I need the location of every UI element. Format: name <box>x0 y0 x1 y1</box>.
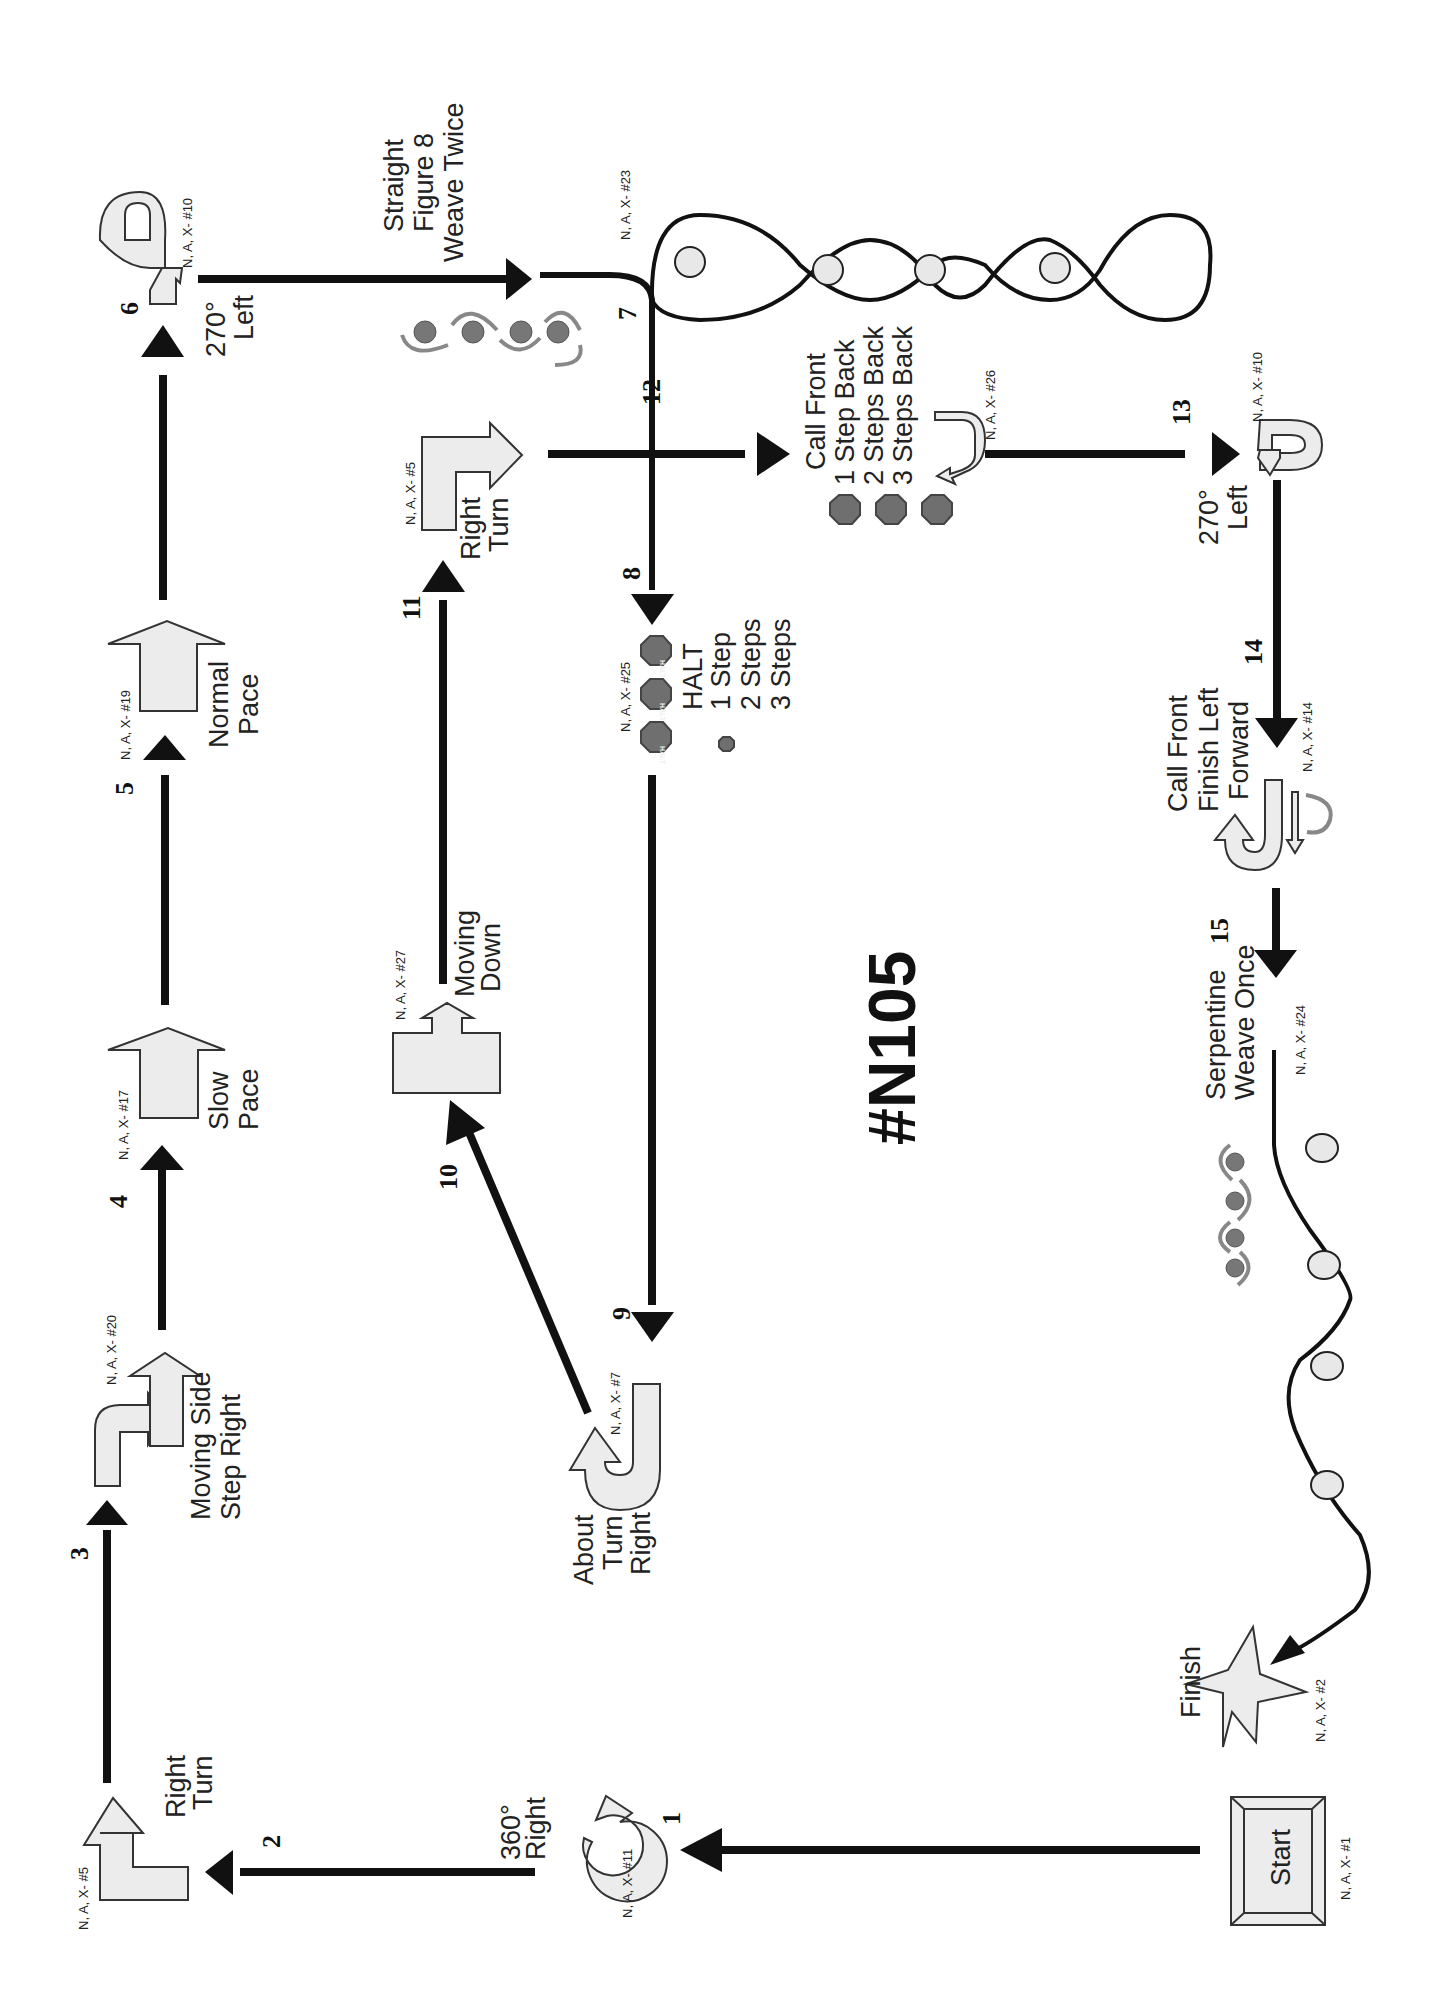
normal-pace-code: N, A, X- #19 <box>118 690 133 760</box>
270-left-2-label-1: 270° <box>1194 489 1224 545</box>
normal-pace-label-1: Normal <box>204 661 234 748</box>
finish-left-label-2: Finish Left <box>1194 687 1224 812</box>
halt-text-1: HALT <box>659 660 666 679</box>
right-turn-2-label-1: Right <box>456 496 486 560</box>
moving-down-label-2: Down <box>476 923 506 992</box>
path-segment-4 <box>140 1145 184 1330</box>
path-segment-13 <box>985 432 1240 476</box>
step-number-7: 7 <box>613 307 642 320</box>
figure-8-weave-path <box>652 215 1211 320</box>
call-front-icon-1 <box>935 412 985 484</box>
path-segment-3 <box>86 1500 128 1783</box>
call-front-back-halt-icons <box>830 495 952 524</box>
start-label: Start <box>1266 1828 1296 1886</box>
about-turn-code: N, A, X- #7 <box>608 1372 623 1435</box>
step-number-6: 6 <box>115 302 144 315</box>
figure-8-code: N, A, X- #23 <box>618 170 633 240</box>
270-left-2-label-2: Left <box>1223 484 1253 530</box>
path-segment-9 <box>631 775 674 1342</box>
serpentine-weave-path <box>1270 1050 1369 1665</box>
step-number-15: 15 <box>1205 918 1234 944</box>
path-segment-12 <box>548 432 790 476</box>
halt-label-4: 3 Steps <box>766 618 796 710</box>
finish-left-code: N, A, X- #14 <box>1300 702 1315 772</box>
path-segment-10 <box>446 1100 588 1413</box>
halt-label-1: HALT <box>678 643 708 710</box>
about-turn-label-2: Turn <box>598 1515 628 1570</box>
figure-8-label-2: Figure 8 <box>409 133 439 232</box>
270-left-1-code: N, A, X- #10 <box>180 198 195 268</box>
path-segment-15 <box>1254 888 1297 978</box>
finish-left-label-1: Call Front <box>1163 694 1193 812</box>
serpentine-label-1: Serpentine <box>1201 969 1231 1100</box>
right-turn-2-label-2: Turn <box>484 497 514 552</box>
call-front-1-code: N, A, X- #26 <box>983 370 998 440</box>
360-right-label-2: Right <box>521 1796 551 1860</box>
call-front-1-label-4: 3 Steps Back <box>888 325 918 485</box>
step-number-12: 12 <box>637 379 666 405</box>
right-turn-1-label-2: Turn <box>188 1755 218 1810</box>
serpentine-label-2: Weave Once <box>1230 944 1260 1100</box>
serpentine-code: N, A, X- #24 <box>1293 1005 1308 1075</box>
path-segment-5 <box>143 735 186 1005</box>
step-number-2: 2 <box>257 1835 286 1848</box>
step-number-10: 10 <box>434 1164 463 1190</box>
360-right-code: N, A, X- #11 <box>620 1849 635 1918</box>
figure-8-label-3: Weave Twice <box>439 102 469 262</box>
finish-left-label-3: Forward <box>1224 701 1254 800</box>
step-number-5: 5 <box>110 782 139 795</box>
slow-pace-label-1: Slow <box>204 1071 234 1130</box>
right-turn-1-code: N, A, X- #5 <box>76 1867 91 1930</box>
270-left-1-label-2: Left <box>229 294 259 340</box>
270-left-1-label-1: 270° <box>201 301 231 357</box>
right-turn-2-code: N, A, X- #5 <box>403 462 418 525</box>
halt-label-3: 2 Steps <box>736 618 766 710</box>
start-code: N, A, X- #1 <box>1338 1837 1353 1900</box>
side-step-label-1: Moving Side <box>186 1371 216 1520</box>
call-front-1-label-1: Call Front <box>801 352 831 470</box>
moving-down-code: N, A, X- #27 <box>393 950 408 1020</box>
step-number-13: 13 <box>1167 399 1196 425</box>
finish-label: Finish <box>1176 1646 1206 1718</box>
step-number-9: 9 <box>607 1307 636 1320</box>
slow-pace-code: N, A, X- #17 <box>116 1090 131 1160</box>
step-number-14: 14 <box>1239 639 1268 665</box>
normal-pace-label-2: Pace <box>234 673 264 735</box>
call-front-1-label-3: 2 Steps Back <box>859 325 889 485</box>
step-number-4: 4 <box>104 1195 133 1208</box>
moving-down-icon <box>393 1003 500 1093</box>
about-turn-label-3: Right <box>626 1511 656 1575</box>
270-left-icon-2 <box>1258 420 1322 475</box>
path-segment-2 <box>205 1850 535 1895</box>
270-left-2-code: N, A, X- #10 <box>1250 352 1265 422</box>
about-turn-label-1: About <box>569 1514 599 1585</box>
figure-8-dog-icon <box>402 313 581 365</box>
figure-8-label-1: Straight <box>379 138 409 232</box>
step-number-11: 11 <box>397 595 426 620</box>
right-turn-1-label-1: Right <box>161 1754 191 1818</box>
270-left-icon-1 <box>100 192 182 304</box>
slow-pace-label-2: Pace <box>234 1068 264 1130</box>
path-segment-6 <box>141 325 184 600</box>
step-number-8: 8 <box>617 567 646 580</box>
course-title: #N105 <box>855 951 929 1146</box>
side-step-code: N, A, X- #20 <box>104 1315 119 1385</box>
side-step-label-2: Step Right <box>216 1393 246 1520</box>
path-segment-14 <box>1255 480 1298 748</box>
serpentine-dog-icon <box>1220 1145 1250 1285</box>
step-number-3: 3 <box>65 1547 94 1560</box>
rally-course-map: Start N, A, X- #1 Finish N, A, X- #2 360… <box>0 0 1444 2014</box>
path-segment-7 <box>198 258 532 300</box>
halt-text-2: HALT <box>659 703 666 722</box>
call-front-1-label-2: 1 Step Back <box>830 339 860 485</box>
halt-label-2: 1 Step <box>706 632 736 710</box>
step-number-1: 1 <box>657 1812 686 1825</box>
halt-text-3: HALT <box>659 746 666 765</box>
path-segment-1 <box>680 1828 1200 1872</box>
halt-code: N, A, X- #25 <box>618 662 633 732</box>
finish-code: N, A, X- #2 <box>1313 1679 1328 1742</box>
